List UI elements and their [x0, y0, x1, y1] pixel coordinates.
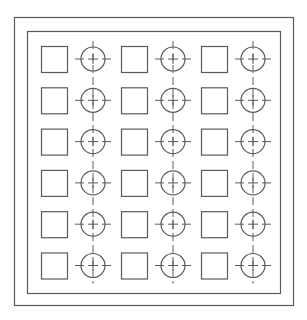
square-marker — [42, 88, 68, 114]
square-marker — [122, 253, 148, 279]
square-marker — [122, 212, 148, 238]
outer-frame — [15, 18, 294, 306]
square-marker — [202, 129, 228, 155]
square-marker — [122, 88, 148, 114]
square-marker — [202, 47, 228, 73]
square-marker — [42, 47, 68, 73]
inner-frame — [28, 32, 281, 294]
square-marker — [42, 253, 68, 279]
diagram-canvas — [0, 0, 307, 320]
square-marker — [42, 170, 68, 196]
square-marker — [42, 129, 68, 155]
square-marker — [202, 212, 228, 238]
square-marker — [122, 47, 148, 73]
square-marker — [122, 170, 148, 196]
square-marker — [202, 253, 228, 279]
square-marker — [122, 129, 148, 155]
square-marker — [202, 88, 228, 114]
square-marker — [42, 212, 68, 238]
square-marker — [202, 170, 228, 196]
